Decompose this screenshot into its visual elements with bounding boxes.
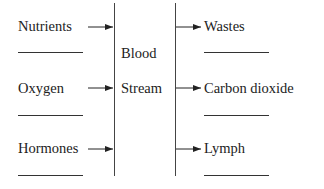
arrows-layer [0,0,324,189]
